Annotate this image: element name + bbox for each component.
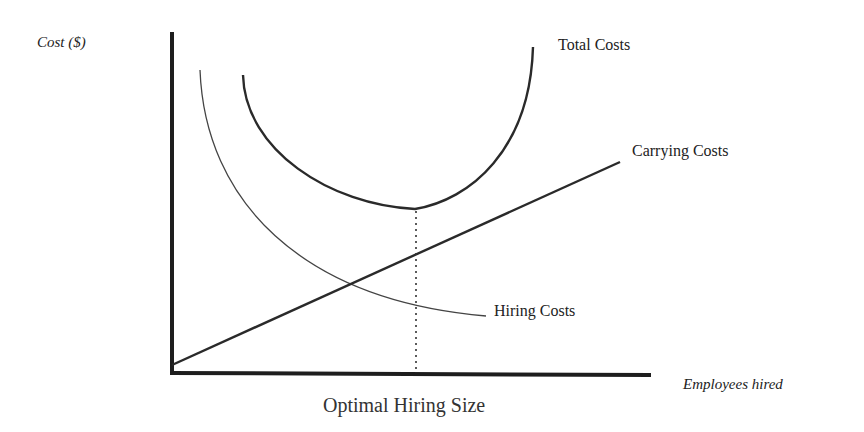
hiring-costs-label: Hiring Costs bbox=[494, 302, 575, 320]
total-costs-curve bbox=[243, 47, 533, 209]
y-axis-label: Cost ($) bbox=[37, 34, 86, 51]
total-costs-label: Total Costs bbox=[558, 36, 630, 54]
carrying-costs-label: Carrying Costs bbox=[632, 142, 728, 160]
x-axis-label: Employees hired bbox=[683, 376, 783, 393]
cost-diagram bbox=[0, 0, 864, 432]
optimal-hiring-size-label: Optimal Hiring Size bbox=[323, 394, 485, 417]
x-axis bbox=[170, 373, 651, 375]
carrying-costs-line bbox=[172, 162, 620, 365]
